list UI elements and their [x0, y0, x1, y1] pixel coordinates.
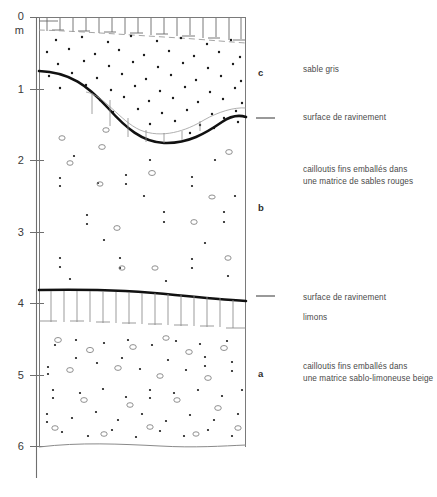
axis-tick-2: 2	[2, 154, 24, 166]
figure-canvas: 0 m 1 2 3 4 5 6 c b a sable gris surface…	[0, 0, 437, 497]
erosion-surface-lower	[39, 290, 246, 301]
basal-contact	[39, 444, 246, 447]
axis-unit-label: m	[2, 24, 24, 36]
axis-tick-0: 0	[2, 10, 24, 22]
annotation-surface-ravinement-lower: surface de ravinement	[303, 292, 386, 304]
axis-tick-5: 5	[2, 369, 24, 381]
unit-b-clasts	[59, 128, 236, 282]
unit-a-clasts	[46, 336, 243, 438]
annotation-surface-ravinement-upper: surface de ravinement	[303, 112, 386, 124]
annotation-cailloutis-sables-rouges: cailloutis fins emballés dans une matric…	[303, 164, 413, 188]
unit-letter-c: c	[258, 67, 263, 78]
unit-letter-b: b	[258, 202, 264, 213]
depth-axis	[30, 17, 44, 478]
stratigraphic-log-drawing	[0, 0, 437, 497]
erosion-surface-upper	[39, 71, 246, 143]
axis-tick-6: 6	[2, 440, 24, 452]
annotation-limons: limons	[303, 312, 327, 324]
top-hatch-band	[39, 18, 246, 43]
axis-tick-3: 3	[2, 226, 24, 238]
annotation-cailloutis-sablo-limoneuse: cailloutis fins emballés dans une matric…	[303, 361, 433, 385]
axis-tick-4: 4	[2, 297, 24, 309]
axis-tick-1: 1	[2, 83, 24, 95]
limons-band	[39, 291, 246, 328]
unit-letter-a: a	[258, 368, 263, 379]
unit-c-sand-stipple	[46, 35, 243, 134]
column-outline	[39, 17, 246, 447]
annotation-sable-gris: sable gris	[303, 64, 339, 76]
